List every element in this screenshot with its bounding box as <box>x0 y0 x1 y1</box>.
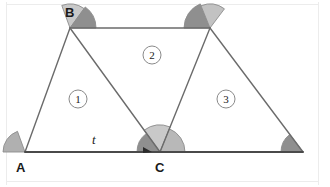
vertex-label-C: C <box>155 160 165 175</box>
diagram-canvas: 123 ABC t <box>0 0 330 187</box>
line-label-layer: t <box>92 132 96 147</box>
vertex-label-B: B <box>65 5 74 20</box>
vertex-label-A: A <box>16 160 26 175</box>
geometry-figure: 123 ABC t <box>0 0 330 187</box>
region-1-text: 1 <box>75 93 81 105</box>
region-3-text: 3 <box>223 93 229 105</box>
line-label-t: t <box>92 132 96 147</box>
region-2-text: 2 <box>149 49 155 61</box>
